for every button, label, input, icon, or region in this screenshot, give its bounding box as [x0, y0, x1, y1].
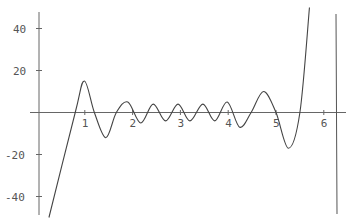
x-tick-label: 2 — [130, 117, 137, 130]
y-tick-label: 20 — [13, 65, 26, 78]
y-tick-label: -40 — [5, 191, 25, 204]
asymptote-branch — [336, 14, 337, 214]
x-tick-label: 1 — [82, 117, 89, 130]
plot: 1234564020-20-40 — [0, 0, 363, 224]
x-tick-label: 6 — [321, 117, 328, 130]
y-tick-label: -20 — [5, 149, 25, 162]
plot-svg: 1234564020-20-40 — [0, 0, 363, 224]
x-tick-label: 4 — [225, 117, 232, 130]
y-tick-label: 40 — [13, 23, 26, 36]
x-tick-label: 3 — [177, 117, 184, 130]
